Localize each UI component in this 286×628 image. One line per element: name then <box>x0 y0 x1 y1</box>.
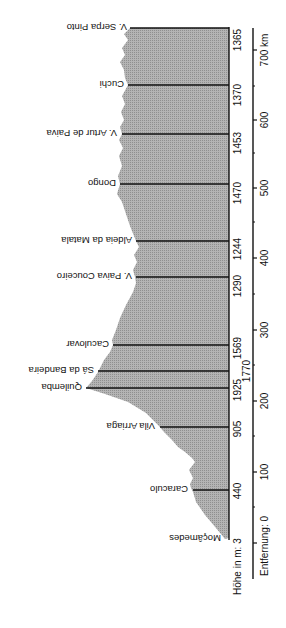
tick-label: 300 <box>259 321 270 338</box>
elevation-value: 1925 <box>232 378 243 401</box>
elevation-value: 1370 <box>232 83 243 106</box>
elevation-value: 1470 <box>232 181 243 204</box>
elevation-value: 1569 <box>232 336 243 359</box>
elevation-value: 1290 <box>232 274 243 297</box>
distance-tick-labels: 100 200 300 400 500 600 700 km <box>259 34 270 481</box>
elevation-area <box>86 28 229 539</box>
elevation-value: 3 <box>232 538 243 544</box>
station-label: V. Paiva Couceiro <box>57 271 132 282</box>
elevation-value: 1244 <box>232 237 243 260</box>
distance-axis-label: Entfernung: 0 <box>259 516 270 576</box>
tick-label: 600 <box>259 111 270 128</box>
station-label: Dongo <box>88 178 116 189</box>
elevation-value: 905 <box>232 420 243 437</box>
station-label: Caraculo <box>150 484 188 495</box>
elevation-value: 1453 <box>232 131 243 154</box>
elevation-value: 1365 <box>232 28 243 51</box>
tick-label: 200 <box>259 392 270 409</box>
height-axis-label: Höhe in m: <box>232 547 243 595</box>
station-label: Aldeia da Matala <box>61 235 132 246</box>
elevation-value: 440 <box>232 482 243 499</box>
station-label: V. Artur de Paiva <box>46 128 117 139</box>
elevation-profile-chart: V. Serpa Pinto Cuchi V. Artur de Paiva D… <box>0 0 286 628</box>
station-label: V. Serpa Pinto <box>67 22 127 33</box>
station-label: Caculovar <box>66 339 109 350</box>
tick-label: 100 <box>259 463 270 480</box>
station-label: Sá da Bandeira <box>28 365 94 376</box>
tick-label: 500 <box>259 179 270 196</box>
tick-label: 400 <box>259 249 270 266</box>
station-label: Vila Arriaga <box>106 421 155 432</box>
tick-label: 700 km <box>259 34 270 67</box>
station-label: Cuchi <box>100 79 124 90</box>
elevation-values: 1365 1370 1453 1470 1244 1290 1569 1770 … <box>232 28 252 543</box>
elevation-value: 1770 <box>241 359 252 382</box>
station-label: Moçâmedes <box>169 533 221 544</box>
station-label: Quilemba <box>41 382 82 393</box>
